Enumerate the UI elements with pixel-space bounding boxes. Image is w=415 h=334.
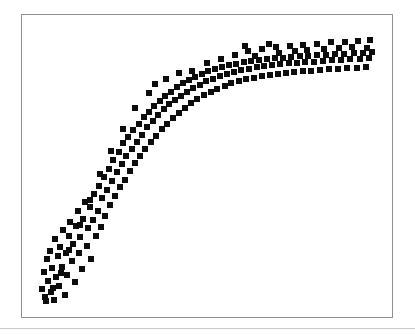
data-point [66,247,72,253]
data-point [104,187,110,193]
data-point [127,168,133,174]
data-point [136,121,142,127]
data-point [363,64,369,70]
data-point [107,202,113,208]
data-point [349,44,355,50]
data-point [261,63,267,69]
data-point [203,78,209,84]
data-point [123,153,129,159]
data-point [188,100,194,106]
data-point [269,62,275,68]
data-point [41,269,47,275]
data-point [139,132,145,138]
data-point [141,114,147,120]
data-point [241,59,247,65]
data-point [95,208,101,214]
data-point [77,234,83,240]
data-point [164,121,170,127]
data-point [218,56,224,62]
data-point [47,248,53,254]
data-point [87,197,93,203]
data-point [180,80,186,86]
data-point [79,266,85,272]
data-point [336,45,342,51]
data-point [357,56,363,62]
data-point [219,64,225,70]
data-point [39,286,45,292]
data-point [259,46,265,52]
data-point [254,64,260,70]
data-point [59,264,65,270]
scatter-plot-area [22,15,392,317]
data-point [335,66,341,72]
data-point [146,90,152,96]
data-point [110,157,116,163]
data-point [277,61,283,67]
data-point [304,47,310,53]
bottom-divider [0,328,415,329]
data-point [320,58,326,64]
data-point [201,92,207,98]
data-point [60,227,66,233]
data-point [62,292,68,298]
data-point [351,50,357,56]
data-point [117,184,123,190]
data-point [132,160,138,166]
data-point [367,37,373,43]
data-point [338,57,344,63]
data-point [49,265,55,271]
data-point [292,48,298,54]
data-point [199,71,205,77]
data-point [259,73,265,79]
data-point [142,146,148,152]
data-point [170,115,176,121]
data-point [214,86,220,92]
data-point [163,76,169,82]
data-point [194,96,200,102]
data-point [189,68,195,74]
data-point [85,225,91,231]
chart-page [0,0,415,334]
data-point [119,161,125,167]
data-point [152,81,158,87]
data-point [217,73,223,79]
data-point [88,256,94,262]
data-point [134,139,140,145]
data-point [75,208,81,214]
data-point [116,149,122,155]
data-point [132,105,138,111]
data-point [276,50,282,56]
data-point [300,68,306,74]
data-point [159,126,165,132]
data-point [66,233,72,239]
data-point [186,77,192,83]
data-point [148,139,154,145]
data-point [43,298,49,304]
data-point [69,258,75,264]
data-point [184,89,190,95]
data-point [355,38,361,44]
data-point [294,60,300,66]
data-point [369,49,375,55]
data-point [106,166,112,172]
data-point [155,112,161,118]
data-point [58,270,64,276]
data-point [122,177,128,183]
data-point [321,46,327,52]
data-point [76,250,82,256]
data-point [328,39,334,45]
data-point [97,171,103,177]
data-point [51,297,57,303]
data-point [150,118,156,124]
data-point [108,148,114,154]
data-point [70,241,76,247]
data-point [144,124,150,130]
data-point [226,62,232,68]
data-point [205,68,211,74]
data-point [120,140,126,146]
data-point [228,80,234,86]
data-point [50,285,56,291]
plot-frame [21,14,393,318]
data-point [192,74,198,80]
data-point [238,67,244,73]
